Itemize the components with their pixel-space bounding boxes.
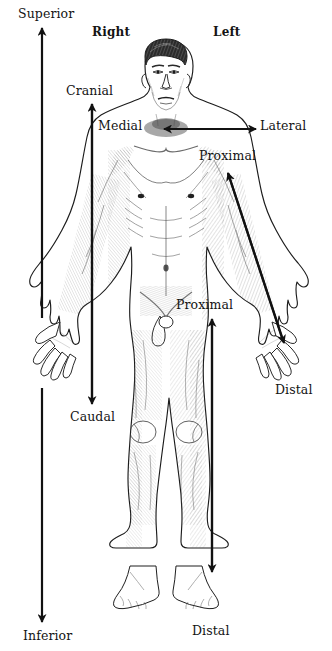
label-left-side: Left <box>213 26 241 38</box>
label-superior: Superior <box>18 8 74 21</box>
label-inferior: Inferior <box>23 630 72 643</box>
human-body-figure <box>0 0 332 651</box>
label-proximal-leg: Proximal <box>176 299 233 312</box>
label-right-side: Right <box>92 26 130 38</box>
label-cranial: Cranial <box>66 85 113 98</box>
label-distal-leg: Distal <box>192 625 230 638</box>
label-proximal-arm: Proximal <box>199 150 256 163</box>
label-medial: Medial <box>98 120 142 133</box>
anatomical-diagram: Superior Inferior Cranial Caudal Medial … <box>0 0 332 651</box>
label-lateral: Lateral <box>260 120 306 133</box>
label-distal-arm: Distal <box>275 384 313 397</box>
label-caudal: Caudal <box>70 411 115 424</box>
feet <box>114 566 219 609</box>
